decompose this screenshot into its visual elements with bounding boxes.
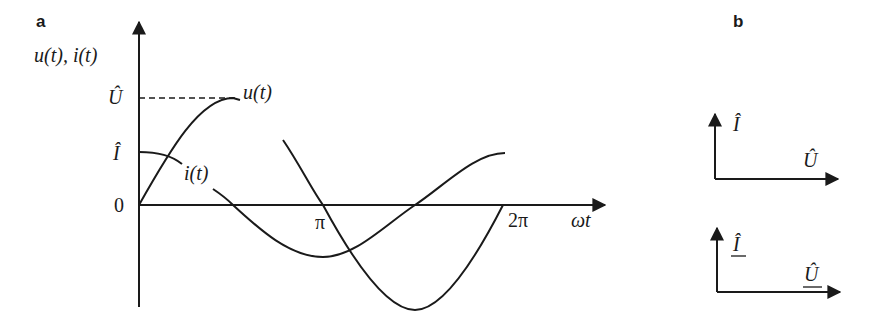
phasor-top: Î Û <box>715 113 838 179</box>
current-curve <box>139 152 182 164</box>
panel-a-label: a <box>36 12 46 31</box>
phasor-bottom-current-label: Î <box>732 233 741 255</box>
i-peak-tick-label: Î <box>112 142 121 164</box>
current-curve-label: i(t) <box>184 162 209 185</box>
zero-tick-label: 0 <box>114 194 124 216</box>
panel-b-label: b <box>733 12 743 31</box>
pi-tick-label: π <box>315 211 325 233</box>
x-axis-label: ωt <box>571 209 591 231</box>
phasor-top-current-label: Î <box>732 113 741 135</box>
y-axis-label: u(t), i(t) <box>34 44 98 67</box>
phasor-diagram: a u(t), i(t) Û Î 0 π 2π ωt u(t) i(t) b Î… <box>0 0 883 320</box>
two-pi-tick-label: 2π <box>508 209 528 231</box>
phasor-bottom: Î Û <box>717 228 840 292</box>
voltage-curve <box>139 98 240 205</box>
phasor-bottom-voltage-label: Û <box>804 262 820 285</box>
u-peak-tick-label: Û <box>108 85 124 108</box>
voltage-curve-label: u(t) <box>243 81 272 104</box>
phasor-top-voltage-label: Û <box>803 148 819 171</box>
